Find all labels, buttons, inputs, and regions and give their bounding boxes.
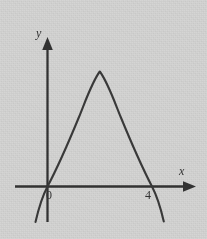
- y-axis-arrowhead: [42, 37, 53, 50]
- parabola-figure: y x 0 4: [0, 0, 207, 239]
- y-axis-label: y: [36, 26, 41, 41]
- x-axis: [15, 181, 196, 192]
- x-tick-label-4: 4: [145, 188, 151, 203]
- x-axis-label: x: [179, 164, 184, 179]
- graph-canvas: [0, 0, 207, 239]
- origin-label: 0: [46, 188, 52, 203]
- x-axis-arrowhead: [183, 181, 196, 192]
